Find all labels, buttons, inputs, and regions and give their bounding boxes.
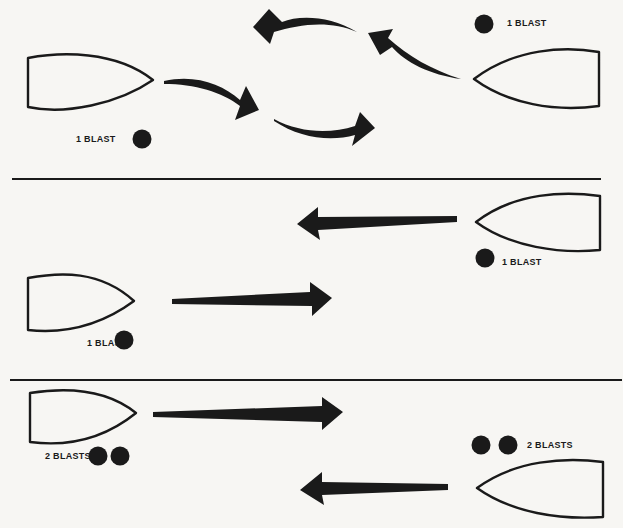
boat-right-icon (477, 460, 603, 518)
boat-right-icon (474, 49, 599, 108)
blast-dot-icon (472, 436, 491, 455)
curved-arrow-right-icon (274, 112, 375, 146)
blast-dot-icon (476, 249, 495, 268)
straight-arrow-left-icon (300, 472, 448, 505)
blast-dot-icon (475, 15, 494, 34)
straight-arrow-right-icon (172, 282, 332, 316)
blast-dot-icon (499, 436, 518, 455)
blast-dot-icon (133, 130, 152, 149)
signal-label: 2 BLASTS (45, 451, 91, 461)
signal-label: 1 BLAST (87, 338, 127, 348)
blast-dot-icon (111, 447, 130, 466)
straight-arrow-left-icon (297, 207, 457, 240)
boat-right-icon (476, 194, 600, 251)
signal-label: 2 BLASTS (527, 440, 573, 450)
signal-label: 1 BLAST (507, 18, 547, 28)
panel-1 (28, 9, 599, 149)
panel-2 (28, 194, 600, 350)
straight-arrow-right-icon (153, 397, 343, 430)
boat-left-icon (28, 54, 153, 109)
signal-label: 1 BLAST (502, 257, 542, 267)
curved-arrow-left-up-icon (368, 29, 461, 79)
curved-arrow-left-icon (253, 9, 357, 44)
blast-dot-icon (89, 447, 108, 466)
curved-arrow-right-down-icon (164, 79, 259, 120)
boat-left-icon (28, 274, 134, 331)
boat-left-icon (30, 390, 136, 443)
signal-label: 1 BLAST (76, 134, 116, 144)
panel-3 (30, 390, 603, 517)
sound-signal-diagram: 1 BLAST 1 BLAST 1 BLAST 1 BLAST 2 BLASTS… (0, 0, 623, 528)
